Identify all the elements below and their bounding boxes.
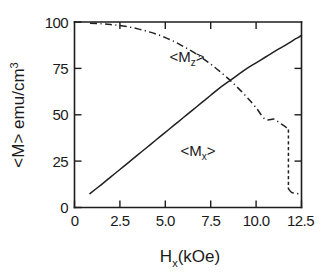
x-tick-label-7p5: 7.5 bbox=[201, 212, 220, 229]
x-tick-marks bbox=[75, 201, 302, 208]
x-axis-title-main: H bbox=[160, 247, 172, 266]
x-tick-label-2p5: 2.5 bbox=[110, 212, 129, 229]
figure-container: 0 25 50 75 100 0 2.5 5.0 7.5 10.0 12.5 H… bbox=[0, 0, 328, 278]
y-axis-title-main: <M> emu/cm bbox=[9, 68, 28, 167]
y-tick-label-25: 25 bbox=[53, 153, 69, 170]
series-mx-annotation-end: > bbox=[207, 142, 216, 159]
y-axis-title: <M> emu/cm3 bbox=[8, 62, 28, 167]
y-tick-label-75: 75 bbox=[53, 60, 69, 77]
x-tick-label-0: 0 bbox=[71, 212, 79, 229]
x-axis-title: Hx(kOe) bbox=[160, 247, 220, 269]
series-mz-tail-curve bbox=[288, 189, 301, 194]
y-axis-title-sup: 3 bbox=[8, 62, 20, 68]
x-axis-title-unit: (kOe) bbox=[178, 247, 221, 266]
series-mz-annotation: <Mz> bbox=[169, 48, 204, 68]
right-tick-marks bbox=[295, 68, 302, 161]
y-tick-label-50: 50 bbox=[53, 106, 69, 123]
series-mz-annotation-main: <M bbox=[169, 48, 190, 65]
x-tick-label-10p0: 10.0 bbox=[243, 212, 270, 229]
x-tick-labels: 0 2.5 5.0 7.5 10.0 12.5 bbox=[71, 212, 315, 229]
series-mx-annotation-main: <M bbox=[180, 142, 201, 159]
x-tick-label-12p5: 12.5 bbox=[287, 212, 314, 229]
y-tick-label-0: 0 bbox=[60, 199, 68, 216]
top-tick-marks bbox=[120, 22, 256, 29]
series-mz-annotation-end: > bbox=[196, 48, 205, 65]
series-mx-annotation: <Mx> bbox=[180, 142, 215, 162]
y-tick-labels: 0 25 50 75 100 bbox=[45, 14, 68, 217]
magnetization-chart: 0 25 50 75 100 0 2.5 5.0 7.5 10.0 12.5 H… bbox=[0, 0, 328, 278]
x-tick-label-5p0: 5.0 bbox=[156, 212, 175, 229]
y-tick-marks bbox=[75, 22, 82, 208]
y-tick-label-100: 100 bbox=[45, 14, 68, 31]
